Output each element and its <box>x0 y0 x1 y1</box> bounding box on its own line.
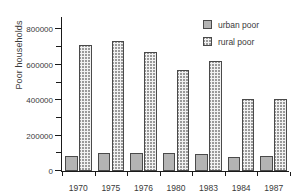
bar-rural-poor-1976 <box>144 52 157 171</box>
x-tick <box>160 172 161 176</box>
y-tick-label: 200000 <box>26 131 53 140</box>
bar-rural-poor-1975 <box>112 41 125 171</box>
legend-swatch-rural-icon <box>203 37 212 46</box>
bar-rural-poor-1980 <box>177 70 190 171</box>
x-tick-label: 1975 <box>101 183 120 193</box>
y-tick-major <box>55 99 61 100</box>
x-tick <box>290 172 291 176</box>
bar-rural-poor-1984 <box>242 99 255 171</box>
y-tick-minor <box>56 82 61 83</box>
x-tick <box>225 172 226 176</box>
y-tick-label: 400000 <box>26 96 53 105</box>
y-axis-line <box>61 17 62 172</box>
y-axis-title: Poor households <box>14 0 24 120</box>
y-tick-major <box>55 170 61 171</box>
bar-rural-poor-1987 <box>274 99 287 171</box>
y-tick-major <box>55 28 61 29</box>
y-tick-label: 0 <box>49 167 53 176</box>
x-tick-label: 1976 <box>134 183 153 193</box>
bar-urban-poor-1987 <box>260 156 273 171</box>
x-tick <box>127 172 128 176</box>
x-tick-label: 1980 <box>167 183 186 193</box>
bar-urban-poor-1975 <box>98 153 111 171</box>
x-tick-label: 1984 <box>232 183 251 193</box>
y-tick-label: 600000 <box>26 60 53 69</box>
y-tick-major <box>55 135 61 136</box>
legend-item-urban-poor: urban poor <box>203 18 259 31</box>
legend-label-urban: urban poor <box>218 20 259 30</box>
x-tick-label: 1987 <box>264 183 283 193</box>
bar-urban-poor-1983 <box>195 154 208 171</box>
x-tick <box>257 172 258 176</box>
x-tick <box>95 172 96 176</box>
bar-rural-poor-1970 <box>79 45 92 171</box>
y-tick-minor <box>56 117 61 118</box>
bar-rural-poor-1983 <box>209 61 222 171</box>
legend: urban poor rural poor <box>203 18 259 52</box>
x-tick-label: 1983 <box>199 183 218 193</box>
x-tick <box>62 172 63 176</box>
legend-item-rural-poor: rural poor <box>203 35 259 48</box>
bar-urban-poor-1970 <box>65 156 78 171</box>
y-tick-minor <box>56 46 61 47</box>
bar-chart: Poor households 020000040000060000080000… <box>0 0 293 196</box>
bar-urban-poor-1976 <box>130 153 143 171</box>
x-tick <box>192 172 193 176</box>
y-tick-minor <box>56 152 61 153</box>
legend-label-rural: rural poor <box>218 37 254 47</box>
bar-urban-poor-1980 <box>163 153 176 171</box>
x-tick-label: 1970 <box>69 183 88 193</box>
bar-urban-poor-1984 <box>228 157 241 171</box>
legend-swatch-urban-icon <box>203 20 212 29</box>
y-tick-major <box>55 64 61 65</box>
y-tick-label: 800000 <box>26 25 53 34</box>
